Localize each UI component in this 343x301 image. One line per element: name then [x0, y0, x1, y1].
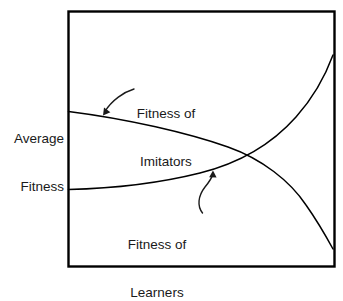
imitators-curve-label: Fitness of Imitators	[125, 74, 207, 186]
imitators-curve-label-line2: Imitators	[125, 154, 207, 170]
imitators-curve-label-line1: Fitness of	[125, 106, 207, 122]
y-axis-label: Average Fitness	[2, 99, 64, 211]
y-axis-label-line2: Fitness	[2, 179, 64, 195]
learners-curve-label: Fitness of Learners	[115, 205, 199, 301]
learners-curve-label-line1: Fitness of	[115, 237, 199, 253]
learners-curve-label-line2: Learners	[115, 285, 199, 301]
y-axis-label-line1: Average	[2, 131, 64, 147]
